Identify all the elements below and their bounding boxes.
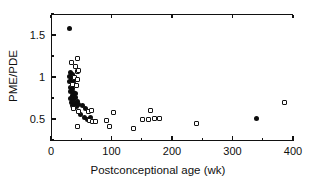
x-axis-tick: [292, 136, 293, 141]
x-tick-label: 300: [213, 145, 253, 157]
x-axis-tick: [232, 136, 233, 141]
top-frame-tick: [50, 15, 51, 18]
x-axis-tick: [202, 138, 203, 141]
y-axis-tick: [51, 76, 56, 77]
y-axis-tick: [51, 97, 54, 98]
x-tick-label: 0: [31, 145, 71, 157]
y-axis-tick: [51, 118, 56, 119]
y-axis-tick: [51, 55, 54, 56]
x-axis-tick: [171, 136, 172, 141]
top-frame-tick: [111, 15, 112, 18]
x-tick-label: 200: [152, 145, 192, 157]
top-frame-tick: [232, 15, 233, 18]
x-axis-tick: [111, 136, 112, 141]
x-axis-tick: [141, 138, 142, 141]
top-frame-tick: [171, 15, 172, 18]
x-axis-tick: [262, 138, 263, 141]
y-axis-title: PME/PDE: [7, 26, 19, 126]
y-axis-tick: [51, 34, 56, 35]
top-frame-tick: [292, 15, 293, 18]
x-axis-tick: [81, 138, 82, 141]
x-tick-label: 100: [92, 145, 132, 157]
y-axis-tick: [51, 139, 54, 140]
x-tick-label: 400: [273, 145, 313, 157]
x-axis-title: Postconceptional age (wk): [0, 164, 316, 176]
scatter-plot-figure: 01002003004000.511.5 Postconceptional ag…: [0, 0, 316, 184]
plot-area: [51, 14, 293, 141]
